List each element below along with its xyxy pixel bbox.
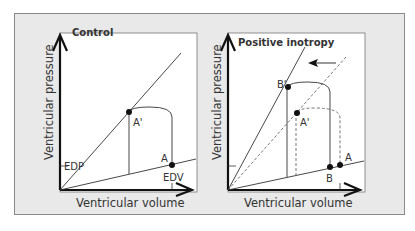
pv-loop-diagram: Control A' A EDP EDV Ventricular volume … xyxy=(0,0,415,231)
label-a: A xyxy=(161,153,168,164)
panel-control: Control A' A EDP EDV Ventricular volume … xyxy=(42,27,197,210)
label-b-prime: B' xyxy=(277,79,287,90)
panel-title: Control xyxy=(72,27,113,38)
panel-title: Positive inotropy xyxy=(238,37,335,48)
label-a-prime: A' xyxy=(133,117,143,128)
label-a: A xyxy=(345,152,352,163)
x-axis-label: Ventricular volume xyxy=(76,196,185,210)
label-a-prime: A' xyxy=(300,117,310,128)
y-axis-label: Ventricular pressure xyxy=(210,44,224,160)
label-edp: EDP xyxy=(64,161,84,172)
panel-positive-inotropy: Positive inotropy B' A' A B Ventricular … xyxy=(210,33,365,210)
y-axis-label: Ventricular pressure xyxy=(42,44,56,160)
x-axis-label: Ventricular volume xyxy=(244,196,353,210)
label-b: B xyxy=(326,173,333,184)
label-edv: EDV xyxy=(163,172,184,183)
